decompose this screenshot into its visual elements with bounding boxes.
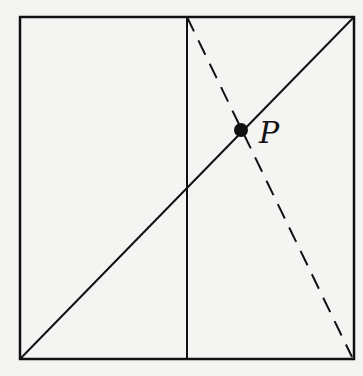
dashed-line bbox=[187, 17, 352, 357]
point-p-label: P bbox=[258, 115, 280, 150]
geometry-diagram: P bbox=[0, 0, 363, 376]
point-p-marker bbox=[234, 123, 248, 137]
